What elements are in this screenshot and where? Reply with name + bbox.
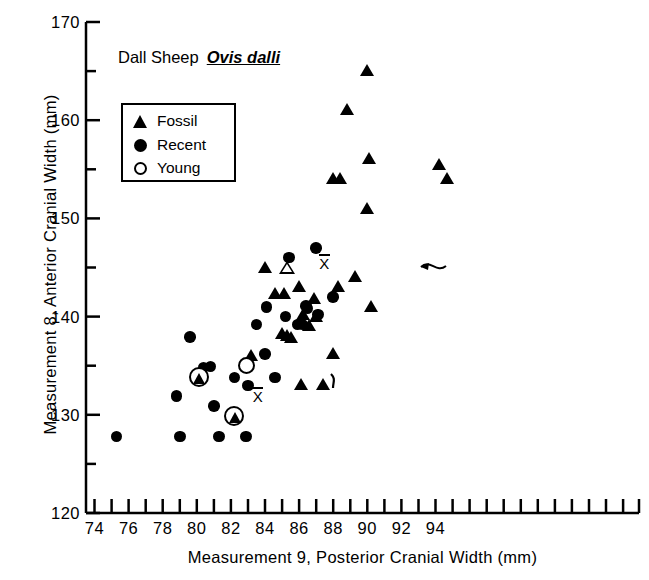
chart-title-species-name: Ovis dalli [207,48,280,66]
recent-circle-icon [133,138,148,153]
recent-mean-label: X [252,387,263,404]
recent-mean-marker [238,357,255,374]
legend: Fossil Recent Young [121,103,236,182]
legend-label-recent: Recent [157,136,206,154]
legend-item-fossil: Fossil [133,109,197,133]
xtick-label-94: 94 [416,520,456,536]
fossil-mean-marker [279,261,295,274]
legend-label-young: Young [157,159,200,177]
ytick-label-120: 120 [0,505,80,521]
y-axis-title: Measurement 8, Anterior Cranial Width (m… [41,35,60,495]
axes-and-ticks [0,0,649,580]
legend-item-young: Young [133,156,200,180]
legend-item-recent: Recent [133,133,206,157]
legend-label-fossil: Fossil [157,112,197,130]
recent-mean-connector [331,374,334,388]
fossil-triangle-icon [133,114,148,129]
chart-title: Dall SheepOvis dalli [118,48,280,67]
chart-title-common-name: Dall Sheep [118,48,199,66]
fossil-mean-connector [421,263,446,270]
ytick-label-170: 170 [0,14,80,30]
x-axis-title: Measurement 9, Posterior Cranial Width (… [86,548,639,567]
young-open-circle-icon [133,161,148,176]
fossil-mean-label: X [319,254,330,271]
scatter-plot-figure: 170 160 150 140 130 120 74 76 78 80 82 8… [0,0,649,580]
